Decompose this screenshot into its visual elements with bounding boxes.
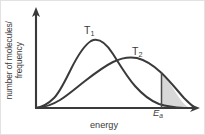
activation-energy-label: Ea <box>153 107 163 118</box>
maxwell-boltzmann-distribution-figure: number of molecules/ frequency energy T1… <box>0 0 205 135</box>
x-axis-label: energy <box>29 120 179 130</box>
series-label-t1-subscript: 1 <box>90 29 94 38</box>
activation-energy-label-subscript: a <box>159 112 163 119</box>
series-label-t1: T1 <box>84 24 94 36</box>
chart-canvas <box>1 1 205 135</box>
series-label-t2: T2 <box>132 45 142 57</box>
series-label-t2-subscript: 2 <box>138 50 142 59</box>
